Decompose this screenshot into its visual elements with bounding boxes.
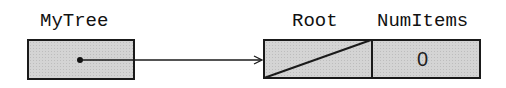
pointer-diagram: MyTree Root NumItems 0 [0,0,506,88]
diagram-lines [0,0,506,88]
null-pointer-slash-icon [264,40,371,78]
